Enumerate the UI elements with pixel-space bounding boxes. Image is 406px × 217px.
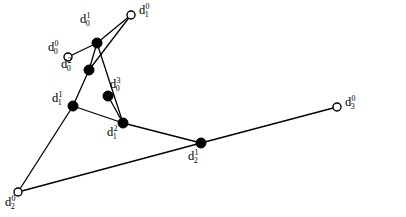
graph-node-d0_2[interactable] xyxy=(84,65,94,75)
edges-group xyxy=(18,15,337,192)
graph-node-d2_1[interactable] xyxy=(196,138,206,148)
node-label-d0_1: d10 xyxy=(80,13,90,26)
graph-node-d0_1[interactable] xyxy=(92,38,102,48)
graph-node-d1_2[interactable] xyxy=(118,118,128,128)
node-label-d0_3: d30 xyxy=(110,78,120,91)
node-label-subscript: 0 xyxy=(86,19,90,28)
graph-edge xyxy=(18,143,201,192)
node-label-d0_0: d00 xyxy=(48,41,58,54)
node-label-d1_2: d21 xyxy=(107,126,117,139)
graph-edge xyxy=(123,123,201,143)
node-label-subscript: 0 xyxy=(67,64,71,73)
figure-canvas: d00d10d20d30d01d11d21d02d12d03 xyxy=(0,0,406,217)
nodes-group xyxy=(14,11,341,196)
node-label-subscript: 1 xyxy=(58,98,62,107)
graph-node-d3_0[interactable] xyxy=(333,103,341,111)
node-label-d1_1: d11 xyxy=(52,92,62,105)
node-label-subscript: 2 xyxy=(11,202,15,211)
node-label-subscript: 0 xyxy=(54,47,58,56)
graph-node-d1_1[interactable] xyxy=(68,101,78,111)
graph-node-d2_0[interactable] xyxy=(14,188,22,196)
node-label-d2_0: d02 xyxy=(5,196,15,209)
node-label-subscript: 1 xyxy=(113,132,117,141)
graph-node-d0_3[interactable] xyxy=(103,91,113,101)
graph-edge xyxy=(201,107,337,143)
node-label-subscript: 3 xyxy=(351,102,355,111)
node-label-subscript: 2 xyxy=(194,156,198,165)
node-label-subscript: 0 xyxy=(116,84,120,93)
graph-node-d1_0[interactable] xyxy=(127,11,135,19)
graph-edge xyxy=(97,15,131,43)
graph-edge xyxy=(73,70,89,106)
node-label-d2_1: d12 xyxy=(188,150,198,163)
node-label-d0_2: d20 xyxy=(61,58,71,71)
node-label-subscript: 1 xyxy=(145,10,149,19)
node-label-d1_0: d01 xyxy=(139,4,149,17)
node-label-d3_0: d03 xyxy=(345,96,355,109)
